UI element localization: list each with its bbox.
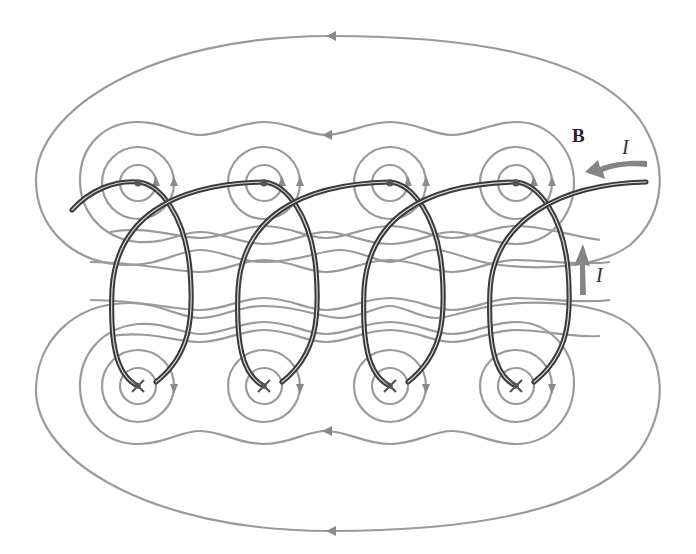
arrow-up-icon xyxy=(548,176,556,186)
arrow-down-icon xyxy=(296,384,304,394)
arrow-down-icon xyxy=(548,384,556,394)
arrow-left-icon xyxy=(322,130,332,140)
outer-field-loops xyxy=(36,31,660,536)
current-in-markers xyxy=(132,380,522,392)
bottom-row-circles xyxy=(102,350,556,422)
solenoid-field-diagram: B I I xyxy=(0,0,696,554)
dot-marker xyxy=(513,180,520,187)
dot-marker xyxy=(261,180,268,187)
current-label-top: I xyxy=(621,136,630,158)
arrow-up-icon xyxy=(422,176,430,186)
interior-line-2 xyxy=(90,260,610,272)
current-arrow-up-icon xyxy=(574,244,590,295)
arrow-left-icon xyxy=(326,526,336,536)
arrow-left-icon xyxy=(322,426,332,436)
dot-marker xyxy=(135,180,142,187)
arrow-up-icon xyxy=(170,176,178,186)
interior-line-3 xyxy=(90,298,610,310)
field-label: B xyxy=(572,125,585,146)
arrow-left-icon xyxy=(326,31,336,41)
current-label-side: I xyxy=(595,264,604,286)
current-arrow-left-icon xyxy=(585,160,647,179)
arrow-down-icon xyxy=(170,384,178,394)
dot-marker xyxy=(387,180,394,187)
arrow-down-icon xyxy=(422,384,430,394)
arrow-up-icon xyxy=(296,176,304,186)
